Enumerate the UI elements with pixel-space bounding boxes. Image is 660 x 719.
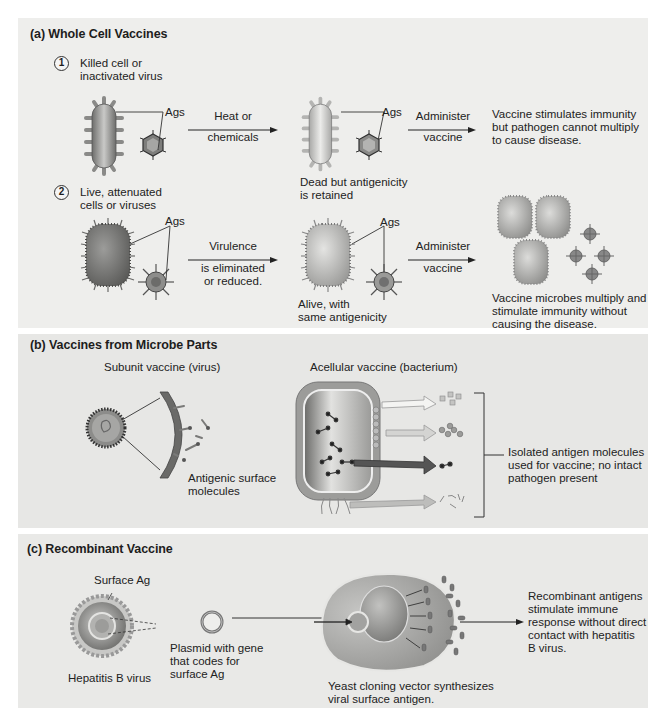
yeast-cloning-label: Yeast cloning vector synthesizes viral s… bbox=[328, 680, 494, 706]
antigenic-surface-label: Antigenic surface molecules bbox=[188, 472, 276, 498]
alive-antigenicity-label: Alive, with same antigenicity bbox=[298, 298, 387, 324]
ags-label-2b: Ags bbox=[380, 216, 400, 229]
bracket-icon bbox=[474, 392, 504, 518]
eliminated-label: is eliminated or reduced. bbox=[188, 262, 278, 288]
vaccine-label-2: vaccine bbox=[408, 262, 478, 275]
surface-ag-label: Surface Ag bbox=[94, 574, 150, 587]
multiplying-microbes-icon bbox=[494, 194, 624, 290]
hepatitis-b-label: Hepatitis B virus bbox=[68, 672, 151, 685]
acellular-vaccine-label: Acellular vaccine (bacterium) bbox=[310, 361, 458, 374]
plasmid-icon bbox=[198, 608, 226, 636]
arrow-to-outcome-icon bbox=[460, 618, 524, 626]
panel-microbe-parts: (b) Vaccines from Microbe Parts Subunit … bbox=[18, 334, 648, 528]
isolated-antigen-text: Isolated antigen molecules used for vacc… bbox=[508, 446, 644, 485]
ags-label-2a: Ags bbox=[165, 215, 185, 228]
hepatitis-b-virus-icon bbox=[72, 590, 158, 662]
alive-spiky-virus-icon bbox=[366, 264, 402, 300]
recombinant-outcome-text: Recombinant antigens stimulate immune re… bbox=[528, 590, 646, 655]
acellular-bacterium-icon bbox=[294, 380, 454, 516]
subunit-vaccine-label: Subunit vaccine (virus) bbox=[104, 361, 220, 374]
alive-attenuated-cell-icon bbox=[300, 218, 356, 292]
administer-label-2: Administer bbox=[408, 240, 478, 253]
panel-whole-cell-vaccines: (a) Whole Cell Vaccines 1 Killed cell or… bbox=[18, 18, 648, 328]
panel-c-title: (c) Recombinant Vaccine bbox=[27, 542, 173, 556]
panel-recombinant-vaccine: (c) Recombinant Vaccine Surface Ag Hepat… bbox=[18, 534, 648, 708]
panel-b-title: (b) Vaccines from Microbe Parts bbox=[30, 338, 217, 352]
virulence-label: Virulence bbox=[188, 240, 278, 253]
outcome-2-text: Vaccine microbes multiply and stimulate … bbox=[492, 292, 646, 331]
